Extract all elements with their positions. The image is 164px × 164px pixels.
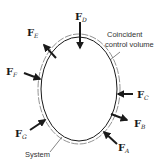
control-volume-label-line1: Coincident: [107, 30, 143, 39]
system-boundary: [41, 37, 117, 141]
system-label: System: [25, 150, 50, 159]
control-volume-label-line2: control volume: [105, 40, 154, 49]
force-g-arrow: [30, 120, 45, 130]
force-c-label: FC: [137, 89, 149, 101]
force-a-label: FA: [118, 142, 130, 154]
force-e-label: FE: [27, 27, 39, 39]
force-a-arrow: [104, 132, 117, 144]
force-g-label: FG: [15, 128, 27, 140]
force-b-label: FB: [134, 118, 146, 130]
system-leader-line: [50, 137, 62, 152]
force-f-label: FF: [6, 66, 18, 78]
force-d-label: FD: [75, 11, 87, 23]
force-f-arrow: [24, 73, 40, 79]
system-control-volume-diagram: FD FE FF FG FC FB FA Coincident control …: [0, 0, 164, 164]
